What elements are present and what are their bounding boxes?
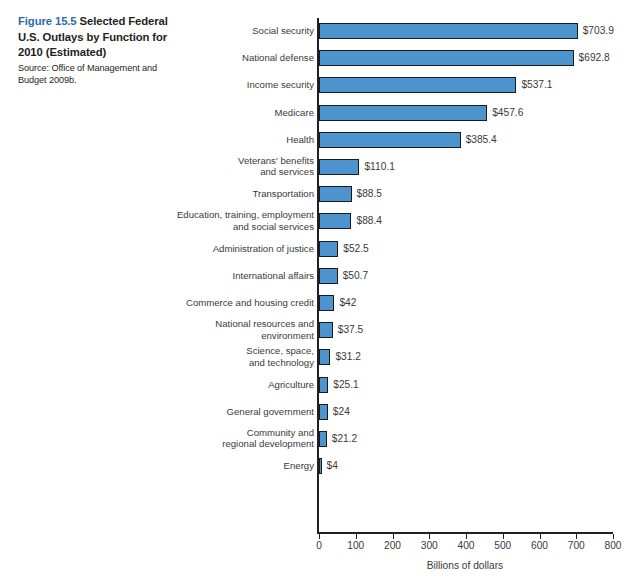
- bar-row: Energy$4: [0, 453, 644, 480]
- bar-value-label: $21.2: [332, 433, 358, 445]
- category-label: Health: [146, 134, 314, 145]
- bar-row: Medicare$457.6: [0, 100, 644, 127]
- bar-value-label: $52.5: [343, 243, 369, 255]
- bar-value-label: $110.1: [364, 161, 394, 173]
- bar: [319, 77, 516, 93]
- y-axis-line: [317, 18, 319, 533]
- x-axis-tick-label: 700: [556, 540, 596, 552]
- category-label: Agriculture: [146, 379, 314, 390]
- bar-value-label: $537.1: [521, 79, 552, 91]
- x-axis-tick: [503, 534, 504, 539]
- x-axis-tick-label: 500: [483, 540, 523, 552]
- bar-value-label: $42: [339, 297, 356, 309]
- bar: [319, 349, 330, 365]
- category-label: General government: [146, 406, 314, 417]
- x-axis-tick-label: 300: [409, 540, 449, 552]
- bar-row: National defense$692.8: [0, 45, 644, 72]
- category-label: Transportation: [146, 188, 314, 199]
- x-axis-tick-label: 600: [520, 540, 560, 552]
- bar-row: Science, space, and technology$31.2: [0, 344, 644, 371]
- x-axis-tick: [466, 534, 467, 539]
- category-label: Social security: [146, 25, 314, 36]
- bar: [319, 404, 328, 420]
- bar-value-label: $457.6: [492, 107, 523, 119]
- x-axis-tick-label: 0: [299, 540, 339, 552]
- category-label: Commerce and housing credit: [146, 297, 314, 308]
- bar: [319, 105, 487, 121]
- bar-value-label: $88.5: [357, 188, 383, 200]
- bar: [319, 186, 352, 202]
- bar-value-label: $88.4: [356, 215, 382, 227]
- x-axis-tick-label: 400: [446, 540, 486, 552]
- category-label: Administration of justice: [146, 243, 314, 254]
- bar-row: National resources and environment$37.5: [0, 317, 644, 344]
- category-label: Income security: [146, 79, 314, 90]
- bar-row: Social security$703.9: [0, 18, 644, 45]
- category-label: Energy: [146, 460, 314, 471]
- bar-value-label: $692.8: [579, 52, 610, 64]
- x-axis-title: Billions of dollars: [317, 560, 613, 571]
- bar-value-label: $37.5: [338, 324, 364, 336]
- category-label: National defense: [146, 52, 314, 63]
- category-label: International affairs: [146, 270, 314, 281]
- bar-row: Education, training, employment and soci…: [0, 208, 644, 235]
- category-label: Science, space, and technology: [146, 345, 314, 368]
- bar: [319, 458, 322, 474]
- category-label: Education, training, employment and soci…: [146, 209, 314, 232]
- category-label: National resources and environment: [146, 318, 314, 341]
- x-axis-tick: [393, 534, 394, 539]
- bar-chart: Social security$703.9National defense$69…: [0, 0, 644, 588]
- x-axis-tick: [540, 534, 541, 539]
- x-axis-tick-label: 200: [373, 540, 413, 552]
- bar: [319, 23, 578, 39]
- bar-value-label: $703.9: [583, 25, 614, 37]
- x-axis-tick-label: 800: [593, 540, 633, 552]
- bar-row: General government$24: [0, 399, 644, 426]
- x-axis-tick: [356, 534, 357, 539]
- bar: [319, 322, 333, 338]
- x-axis-tick-label: 100: [336, 540, 376, 552]
- bar-row: Commerce and housing credit$42: [0, 290, 644, 317]
- bar: [319, 159, 359, 175]
- category-label: Veterans' benefits and services: [146, 155, 314, 178]
- bar-value-label: $24: [333, 406, 350, 418]
- x-axis-tick: [429, 534, 430, 539]
- bar: [319, 377, 328, 393]
- bar-value-label: $31.2: [335, 351, 361, 363]
- x-axis-tick: [613, 534, 614, 539]
- bar-value-label: $25.1: [333, 379, 359, 391]
- bar-value-label: $50.7: [343, 270, 369, 282]
- bar: [319, 213, 351, 229]
- bar-value-label: $385.4: [466, 134, 497, 146]
- bar: [319, 132, 461, 148]
- x-axis-line: [317, 532, 613, 534]
- bar-row: Income security$537.1: [0, 72, 644, 99]
- bar-row: Health$385.4: [0, 127, 644, 154]
- bar-value-label: $4: [327, 460, 338, 472]
- category-label: Medicare: [146, 107, 314, 118]
- x-axis-tick: [576, 534, 577, 539]
- bar-row: Community and regional development$21.2: [0, 426, 644, 453]
- bar: [319, 431, 327, 447]
- bar-row: Transportation$88.5: [0, 181, 644, 208]
- x-axis-tick: [319, 534, 320, 539]
- bar: [319, 268, 338, 284]
- bar: [319, 241, 338, 257]
- bar-row: Veterans' benefits and services$110.1: [0, 154, 644, 181]
- bar: [319, 50, 574, 66]
- bar-row: Agriculture$25.1: [0, 372, 644, 399]
- bar-row: International affairs$50.7: [0, 263, 644, 290]
- bar-row: Administration of justice$52.5: [0, 236, 644, 263]
- category-label: Community and regional development: [146, 427, 314, 450]
- bar: [319, 295, 334, 311]
